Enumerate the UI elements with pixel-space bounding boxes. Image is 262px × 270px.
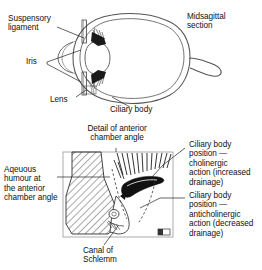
- label-ciliary-body: Ciliary body: [110, 105, 172, 114]
- label-suspensory-ligament: Suspensory ligament: [8, 14, 74, 33]
- scale-mark: [158, 229, 170, 235]
- label-lens: Lens: [50, 95, 80, 104]
- label-canal-of-schlemm: Canal of Schlemm: [83, 246, 139, 265]
- lens-structure: [85, 42, 110, 74]
- eye-anatomy-figure: Suspensory ligament Iris Lens Ciliary bo…: [0, 0, 262, 270]
- detail-panel: [63, 152, 173, 237]
- label-detail-title: Detail of anterior chamber angle: [68, 124, 166, 143]
- label-iris: Iris: [26, 57, 48, 66]
- label-anticholinergic-position: Ciliary body position — anticholinergic …: [189, 191, 261, 238]
- label-aqueous-humour: Aqeuous humour at the anterior chamber a…: [4, 165, 62, 203]
- ciliary-processes: [117, 153, 171, 175]
- label-midsagittal-section: Midsagittal section: [187, 12, 249, 31]
- label-cholinergic-position: Ciliary body position — cholinergic acti…: [189, 140, 261, 187]
